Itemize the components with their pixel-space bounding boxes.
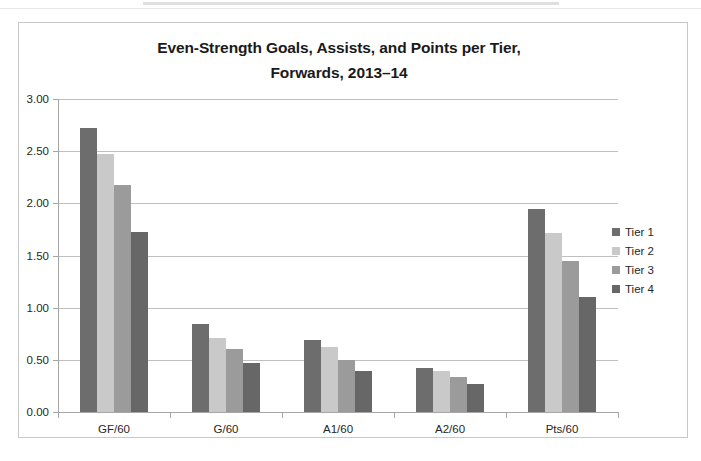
chart-frame: Even-Strength Goals, Assists, and Points…: [18, 22, 688, 438]
bar: [209, 338, 226, 412]
bar: [528, 209, 545, 412]
legend-swatch-icon: [612, 266, 620, 274]
bar-group: [282, 99, 394, 412]
bar: [192, 324, 209, 412]
gridline: [58, 412, 618, 413]
chart-title-line-2: Forwards, 2013–14: [59, 60, 619, 85]
legend-swatch-icon: [612, 285, 620, 293]
y-axis-label: 0.00: [27, 406, 49, 418]
legend-item-tier-1[interactable]: Tier 1: [612, 222, 682, 241]
bar: [579, 297, 596, 412]
bar: [545, 233, 562, 412]
legend-item-label: Tier 3: [625, 264, 654, 276]
y-axis-label: 2.50: [27, 145, 49, 157]
x-axis-label: G/60: [214, 423, 239, 435]
chart-legend: Tier 1Tier 2Tier 3Tier 4: [612, 222, 682, 298]
chart-title-line-1: Even-Strength Goals, Assists, and Points…: [59, 35, 619, 60]
bar-group: [394, 99, 506, 412]
chart-title: Even-Strength Goals, Assists, and Points…: [59, 35, 619, 85]
bar: [80, 128, 97, 412]
legend-item-tier-3[interactable]: Tier 3: [612, 260, 682, 279]
scan-artifact-line-secondary: [0, 8, 701, 9]
bar: [226, 349, 243, 412]
legend-item-label: Tier 2: [625, 245, 654, 257]
x-axis-tick: [282, 412, 283, 418]
legend-item-tier-2[interactable]: Tier 2: [612, 241, 682, 260]
x-axis-label: GF/60: [98, 423, 130, 435]
legend-swatch-icon: [612, 228, 620, 236]
legend-item-tier-4[interactable]: Tier 4: [612, 279, 682, 298]
y-axis-label: 2.00: [27, 197, 49, 209]
plot-area: 0.000.501.001.502.002.503.00 GF/60G/60A1…: [58, 99, 618, 412]
x-axis-label: Pts/60: [546, 423, 579, 435]
bar: [355, 371, 372, 412]
bar: [131, 232, 148, 412]
bar: [450, 377, 467, 412]
x-axis-tick: [58, 412, 59, 418]
bar-group: [58, 99, 170, 412]
bar-group: [170, 99, 282, 412]
bar: [321, 347, 338, 412]
y-axis-label: 3.00: [27, 93, 49, 105]
scan-artifact-line: [143, 2, 559, 5]
bar: [338, 360, 355, 412]
bar: [114, 185, 131, 412]
x-axis-tick: [170, 412, 171, 418]
bar: [243, 363, 260, 412]
legend-item-label: Tier 1: [625, 226, 654, 238]
bar: [416, 368, 433, 412]
bar: [562, 261, 579, 412]
x-axis-tick: [506, 412, 507, 418]
x-axis-tick: [618, 412, 619, 418]
x-axis-tick: [394, 412, 395, 418]
legend-item-label: Tier 4: [625, 283, 654, 295]
x-axis-label: A2/60: [435, 423, 465, 435]
y-axis-label: 1.00: [27, 302, 49, 314]
bar: [97, 154, 114, 412]
y-axis-label: 0.50: [27, 354, 49, 366]
legend-swatch-icon: [612, 247, 620, 255]
bar: [467, 384, 484, 412]
bar: [433, 371, 450, 412]
y-axis-label: 1.50: [27, 250, 49, 262]
x-axis-label: A1/60: [323, 423, 353, 435]
bar: [304, 340, 321, 412]
bar-group: [506, 99, 618, 412]
